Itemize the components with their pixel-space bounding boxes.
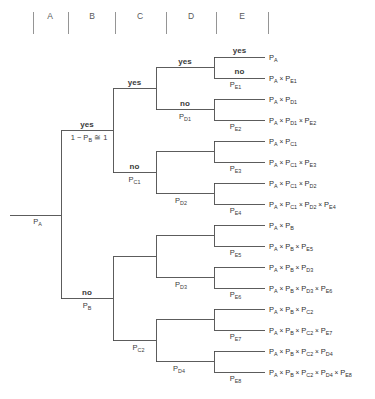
column-divider-group [33,12,268,34]
b-no-probability-label: PB [83,301,92,311]
leaf-outcome-13: PA × PB × PC2 [269,305,313,315]
leaf-outcome-16: PA × PB × PC2 × PD4 × PE8 [269,368,352,378]
c2-no-probability-label: PC2 [133,343,145,353]
e3-probability-label: PE3 [230,164,242,174]
leaf-outcome-6: PA × PC1 × PE3 [269,158,316,168]
b-no-yesno-label: no [82,288,92,297]
leaf-outcome-11: PA × PB × PD3 [269,263,313,273]
decision-tree-diagram: ABCDE PAyes1 − PB ≅ 1noPByesnoPC1PC2yesn… [0,0,375,399]
e1-yes-yesno-label: yes [233,46,247,55]
column-header-D: D [188,11,194,21]
leaf-outcome-3: PA × PD1 [269,95,297,105]
d2-no-probability-label: PD2 [175,196,187,206]
e5-probability-label: PE5 [230,248,242,258]
root-probability-label: PA [33,217,42,227]
column-header-B: B [89,11,95,21]
leaf-outcome-2: PA × PE1 [269,74,297,84]
leaf-outcome-labels: PAPA × PE1PA × PD1PA × PD1 × PE2PA × PC1… [269,53,352,378]
d4-no-probability-label: PD4 [173,364,185,374]
b-yes-probability-label: 1 − PB ≅ 1 [71,133,108,143]
e2-probability-label: PE2 [230,122,242,132]
leaf-outcome-14: PA × PB × PC2 × PE7 [269,326,332,336]
column-labels-group: ABCDE [47,11,245,21]
leaf-outcome-8: PA × PC1 × PD2 × PE4 [269,200,336,210]
e1-no-yesno-label: no [235,67,245,76]
e7-probability-label: PE7 [230,332,242,342]
leaf-outcome-12: PA × PB × PD3 × PE6 [269,284,332,294]
leaf-outcome-4: PA × PD1 × PE2 [269,116,316,126]
e4-probability-label: PE4 [230,206,242,216]
column-header-E: E [239,11,245,21]
branch-labels-group: PAyes1 − PB ≅ 1noPByesnoPC1PC2yesnoPD1PD… [33,46,247,384]
leaf-outcome-9: PA × PB [269,221,294,231]
column-header-A: A [47,11,53,21]
column-header-C: C [137,11,143,21]
leaf-outcome-15: PA × PB × PC2 × PD4 [269,347,333,357]
diagram-page: ABCDE PAyes1 − PB ≅ 1noPByesnoPC1PC2yesn… [0,0,375,399]
d1-no-yesno-label: no [180,99,190,108]
e6-probability-label: PE6 [230,290,242,300]
tree-branch-lines [10,57,265,372]
e1-no-probability-label: PE1 [230,80,242,90]
c1-yes-yesno-label: yes [128,78,142,87]
c1-no-yesno-label: no [130,162,140,171]
d3-no-probability-label: PD3 [175,280,187,290]
d1-no-probability-label: PD1 [179,112,191,122]
c1-no-probability-label: PC1 [129,175,141,185]
leaf-outcome-7: PA × PC1 × PD2 [269,179,317,189]
b-yes-yesno-label: yes [80,120,94,129]
leaf-outcome-10: PA × PB × PE5 [269,242,313,252]
e8-probability-label: PE8 [230,374,242,384]
leaf-outcome-1: PA [269,53,278,63]
d1-yes-yesno-label: yes [178,57,192,66]
leaf-outcome-5: PA × PC1 [269,137,297,147]
